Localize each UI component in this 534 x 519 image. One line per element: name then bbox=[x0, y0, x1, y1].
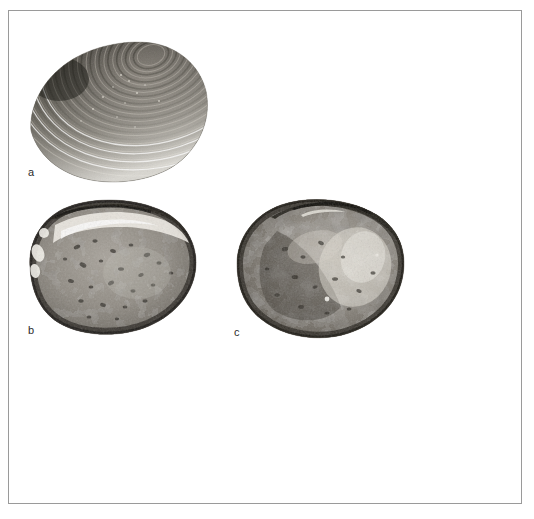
shell-specimen-a bbox=[25, 35, 215, 185]
plate-frame-border: a bbox=[8, 10, 522, 504]
panel-label-b: b bbox=[28, 325, 34, 336]
shell-specimen-b bbox=[25, 195, 205, 340]
figure-plate: a bbox=[0, 0, 534, 519]
panel-label-a: a bbox=[28, 167, 34, 178]
panel-label-c: c bbox=[234, 327, 240, 338]
shell-specimen-c bbox=[231, 195, 413, 343]
